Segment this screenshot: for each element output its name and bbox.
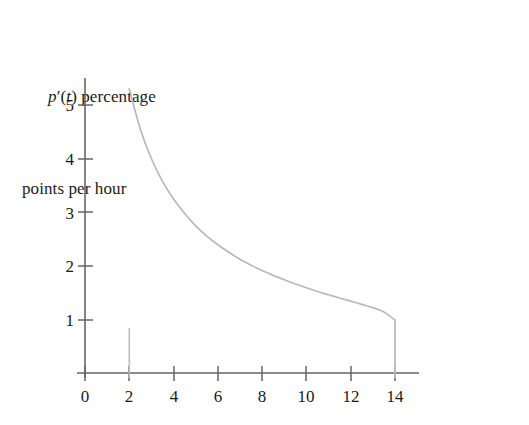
data-curve-p-prime <box>129 89 395 320</box>
axes-group <box>77 78 419 378</box>
plot-area <box>0 0 529 425</box>
chart-figure: p′(t) percentage points per hour t hours… <box>0 0 529 425</box>
